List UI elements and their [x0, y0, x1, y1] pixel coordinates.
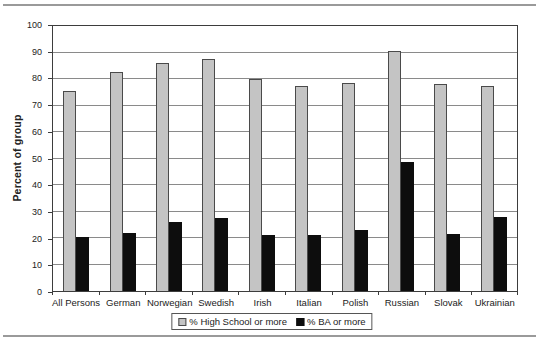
bar-highschool-all-persons — [63, 91, 76, 291]
bar-ba-all-persons — [76, 237, 89, 291]
legend-item-ba: % BA or more — [296, 316, 366, 327]
y-tick-label-0: 0 — [37, 287, 42, 297]
y-tick-label-80: 80 — [32, 73, 42, 83]
bar-series-container — [53, 26, 517, 291]
legend-label: % High School or more — [189, 316, 287, 327]
bar-highschool-polish — [342, 83, 355, 291]
bar-ba-swedish — [215, 218, 228, 291]
x-tickmark-10 — [517, 291, 518, 295]
bar-ba-slovak — [447, 234, 460, 291]
bar-highschool-russian — [388, 51, 401, 291]
bar-group-norwegian — [146, 26, 192, 291]
x-label-ukrainian: Ukrainian — [472, 297, 518, 308]
bar-highschool-norwegian — [156, 63, 169, 291]
bar-ba-norwegian — [169, 222, 182, 291]
y-tick-label-100: 100 — [27, 20, 42, 30]
bar-ba-italian — [308, 235, 321, 291]
x-label-norwegian: Norwegian — [147, 297, 193, 308]
bar-highschool-slovak — [434, 84, 447, 291]
y-tick-label-40: 40 — [32, 180, 42, 190]
legend-swatch-icon — [296, 318, 304, 326]
bar-highschool-italian — [295, 86, 308, 291]
bar-ba-german — [123, 233, 136, 291]
bar-group-slovak — [424, 26, 470, 291]
x-label-italian: Italian — [286, 297, 332, 308]
bar-highschool-irish — [249, 79, 262, 291]
legend-item-highschool: % High School or more — [178, 316, 287, 327]
x-axis-category-labels: All PersonsGermanNorwegianSwedishIrishIt… — [52, 297, 518, 308]
y-tick-label-70: 70 — [32, 100, 42, 110]
page-rule-top — [3, 4, 536, 6]
bar-highschool-swedish — [202, 59, 215, 291]
x-tickmark-7 — [378, 291, 379, 295]
x-label-all-persons: All Persons — [52, 297, 100, 308]
y-tick-label-20: 20 — [32, 234, 42, 244]
bar-chart-figure: Percent of group 0102030405060708090100 … — [0, 0, 539, 349]
x-tickmark-0 — [52, 291, 53, 295]
x-tickmark-2 — [145, 291, 146, 295]
x-tickmark-4 — [238, 291, 239, 295]
bar-ba-irish — [262, 235, 275, 291]
x-axis-tickmarks — [52, 291, 518, 295]
y-tick-label-60: 60 — [32, 127, 42, 137]
y-tick-label-30: 30 — [32, 207, 42, 217]
x-label-polish: Polish — [332, 297, 378, 308]
x-tickmark-6 — [332, 291, 333, 295]
x-tickmark-9 — [471, 291, 472, 295]
x-tickmark-5 — [285, 291, 286, 295]
bar-group-all-persons — [53, 26, 99, 291]
y-axis-tick-labels: 0102030405060708090100 — [0, 25, 47, 292]
bar-group-german — [99, 26, 145, 291]
x-label-russian: Russian — [379, 297, 425, 308]
plot-area — [52, 25, 518, 292]
bar-group-russian — [378, 26, 424, 291]
bar-ba-russian — [401, 162, 414, 291]
x-tickmark-3 — [192, 291, 193, 295]
bar-ba-polish — [355, 230, 368, 291]
legend-swatch-icon — [178, 318, 186, 326]
x-label-swedish: Swedish — [193, 297, 239, 308]
bar-highschool-ukrainian — [481, 86, 494, 291]
x-tickmark-1 — [99, 291, 100, 295]
page-rule-bottom — [3, 335, 536, 337]
bar-group-polish — [331, 26, 377, 291]
x-label-german: German — [100, 297, 146, 308]
bar-group-ukrainian — [471, 26, 517, 291]
bar-ba-ukrainian — [494, 217, 507, 291]
x-label-irish: Irish — [239, 297, 285, 308]
y-tick-label-90: 90 — [32, 47, 42, 57]
x-label-slovak: Slovak — [425, 297, 471, 308]
bar-group-swedish — [192, 26, 238, 291]
bar-group-irish — [239, 26, 285, 291]
legend-label: % BA or more — [307, 316, 366, 327]
x-tickmark-8 — [425, 291, 426, 295]
chart-legend: % High School or more% BA or more — [171, 313, 372, 330]
y-tick-label-10: 10 — [32, 260, 42, 270]
bar-group-italian — [285, 26, 331, 291]
bar-highschool-german — [110, 72, 123, 291]
y-tick-label-50: 50 — [32, 154, 42, 164]
